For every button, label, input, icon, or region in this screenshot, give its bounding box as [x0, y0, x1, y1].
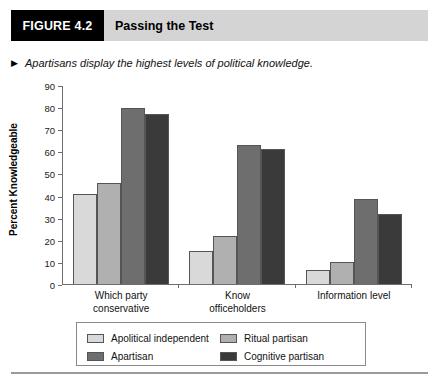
x-category-label: Which partyconservative [63, 290, 179, 315]
footer-divider [11, 372, 428, 374]
plot-frame: 0102030405060708090 Which partyconservat… [62, 86, 412, 285]
bar-group: Which partyconservative [63, 86, 179, 284]
figure-page: FIGURE 4.2 Passing the Test ▶ Apartisans… [0, 0, 439, 378]
legend-item: Cognitive partisan [220, 351, 370, 362]
triangle-bullet-icon: ▶ [11, 56, 18, 70]
bar [354, 199, 378, 284]
legend-label: Apolitical independent [111, 333, 209, 344]
bar [145, 114, 169, 285]
bar-group: Information level [296, 86, 412, 284]
y-tick-mark [58, 285, 62, 286]
bar [330, 262, 354, 284]
figure-header: FIGURE 4.2 Passing the Test [11, 10, 428, 41]
x-tick-mark [411, 284, 412, 288]
x-category-label: Knowofficeholders [179, 290, 295, 315]
legend-item: Ritual partisan [220, 333, 370, 344]
bar [189, 251, 213, 284]
figure-caption: ▶ Apartisans display the highest levels … [11, 56, 431, 70]
figure-title: Passing the Test [115, 10, 213, 41]
y-tick-mark [58, 219, 62, 220]
y-tick-mark [58, 174, 62, 175]
bar [378, 214, 402, 284]
x-category-label: Information level [296, 290, 412, 303]
bar [261, 149, 285, 284]
legend-swatch [220, 352, 237, 361]
y-tick-mark [58, 263, 62, 264]
bar [213, 236, 237, 284]
bar-group: Knowofficeholders [179, 86, 295, 284]
bar [306, 270, 330, 284]
bar [97, 183, 121, 284]
y-tick-mark [58, 241, 62, 242]
bar [121, 108, 145, 284]
legend-label: Cognitive partisan [244, 351, 324, 362]
y-tick-mark [58, 86, 62, 87]
legend-item: Apartisan [87, 351, 220, 362]
x-tick-mark [295, 284, 296, 288]
bar [73, 194, 97, 284]
y-tick-mark [58, 152, 62, 153]
y-axis-label: Percent Knowledgeable [8, 105, 19, 255]
y-tick-mark [58, 130, 62, 131]
chart-area: Percent Knowledgeable 010203040506070809… [0, 78, 439, 310]
legend-swatch [87, 334, 104, 343]
legend-label: Ritual partisan [244, 333, 308, 344]
bar [237, 145, 261, 284]
x-axis-line [62, 284, 412, 285]
bar-groups: Which partyconservativeKnowofficeholders… [63, 86, 412, 284]
legend-item: Apolitical independent [87, 333, 220, 344]
y-tick-mark [58, 197, 62, 198]
legend-label: Apartisan [111, 351, 153, 362]
x-tick-mark [178, 284, 179, 288]
legend-swatch [87, 352, 104, 361]
chart-legend: Apolitical independentRitual partisanApa… [76, 322, 366, 366]
caption-text: Apartisans display the highest levels of… [25, 56, 313, 70]
figure-number: FIGURE 4.2 [11, 10, 104, 41]
legend-swatch [220, 334, 237, 343]
y-tick-mark [58, 108, 62, 109]
